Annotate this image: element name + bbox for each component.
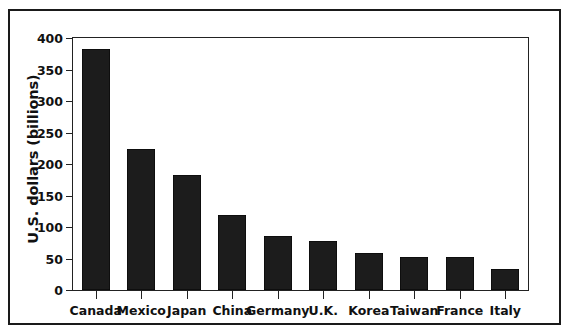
y-axis-tick: [66, 38, 73, 39]
y-axis-tick: [66, 290, 73, 291]
x-axis-tick-label: U.K.: [309, 303, 338, 318]
bar-mexico: [127, 149, 155, 290]
x-axis-tick: [323, 290, 324, 299]
bar-france: [446, 257, 474, 290]
y-axis-tick-label: 100: [37, 220, 63, 235]
y-axis-tick: [66, 164, 73, 165]
x-axis-tick: [187, 290, 188, 299]
x-axis-tick-label: Korea: [348, 303, 389, 318]
x-axis-tick-label: Germany: [246, 303, 309, 318]
bar-korea: [355, 253, 383, 290]
x-axis-tick: [414, 290, 415, 299]
y-axis-tick: [66, 70, 73, 71]
x-axis-tick: [278, 290, 279, 299]
y-axis-tick-label: 250: [37, 125, 63, 140]
bar-germany: [264, 236, 292, 290]
x-axis-tick: [369, 290, 370, 299]
x-axis-tick-label: Italy: [490, 303, 522, 318]
y-axis-tick: [66, 259, 73, 260]
x-axis-tick: [96, 290, 97, 299]
bar-u-k: [309, 241, 337, 290]
x-axis-tick-label: Japan: [167, 303, 206, 318]
bar-chart: U.S. dollars (billions) 0501001502002503…: [10, 11, 563, 327]
bar-italy: [491, 269, 519, 290]
y-axis-tick: [66, 196, 73, 197]
x-axis-tick-label: Taiwan: [390, 303, 439, 318]
y-axis-tick-label: 0: [54, 283, 63, 298]
y-axis-tick-label: 200: [37, 157, 63, 172]
bar-japan: [173, 175, 201, 290]
y-axis-tick-label: 50: [46, 251, 63, 266]
y-axis-tick-label: 400: [37, 31, 63, 46]
y-axis-tick: [66, 101, 73, 102]
x-axis-tick: [505, 290, 506, 299]
y-axis-tick: [66, 227, 73, 228]
y-axis-tick-label: 150: [37, 188, 63, 203]
y-axis-tick: [66, 133, 73, 134]
bar-taiwan: [400, 257, 428, 290]
y-axis-tick-label: 300: [37, 94, 63, 109]
x-axis-tick: [141, 290, 142, 299]
y-axis-tick-label: 350: [37, 62, 63, 77]
bar-canada: [82, 49, 110, 290]
plot-area: 050100150200250300350400CanadaMexicoJapa…: [72, 37, 529, 291]
x-axis-tick-label: France: [436, 303, 483, 318]
plot-inner: 050100150200250300350400CanadaMexicoJapa…: [73, 38, 528, 290]
figure-frame: U.S. dollars (billions) 0501001502002503…: [8, 9, 561, 325]
bar-china: [218, 215, 246, 290]
x-axis-tick: [460, 290, 461, 299]
x-axis-tick-label: Mexico: [117, 303, 166, 318]
x-axis-tick-label: Canada: [70, 303, 122, 318]
x-axis-tick: [232, 290, 233, 299]
